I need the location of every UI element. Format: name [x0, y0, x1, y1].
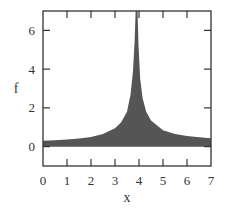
filled-area — [43, 11, 211, 147]
x-tick-label: 2 — [88, 173, 95, 188]
x-tick-label: 6 — [184, 173, 191, 188]
y-tick-label: 0 — [29, 139, 36, 154]
y-tick-label: 4 — [29, 62, 36, 77]
y-tick-label: 2 — [29, 100, 36, 115]
x-tick-label: 7 — [208, 173, 215, 188]
x-tick-label: 5 — [160, 173, 167, 188]
x-tick-label: 3 — [112, 173, 119, 188]
y-axis-label: f — [14, 81, 19, 96]
area-fill — [43, 11, 211, 147]
x-axis-label: x — [124, 190, 131, 205]
x-tick-label: 0 — [40, 173, 47, 188]
x-tick-label: 1 — [64, 173, 71, 188]
x-tick-label: 4 — [136, 173, 143, 188]
area-chart: 012345670246 x f — [0, 0, 226, 213]
y-tick-label: 6 — [29, 23, 36, 38]
